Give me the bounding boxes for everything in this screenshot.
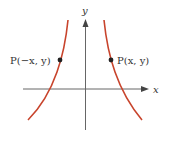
right-branch-curve bbox=[104, 20, 142, 120]
y-axis-arrow-icon bbox=[83, 19, 89, 27]
y-axis-label: y bbox=[81, 5, 88, 16]
point-right-marker bbox=[109, 58, 114, 63]
left-branch-curve bbox=[28, 20, 68, 120]
even-function-graph: P(−x, y) P(x, y) x y bbox=[0, 0, 169, 148]
point-right-label: P(x, y) bbox=[117, 55, 149, 66]
point-left-label: P(−x, y) bbox=[10, 55, 51, 66]
x-axis-arrow-icon bbox=[141, 86, 149, 92]
x-axis-label: x bbox=[153, 84, 159, 95]
point-left-marker bbox=[58, 58, 63, 63]
